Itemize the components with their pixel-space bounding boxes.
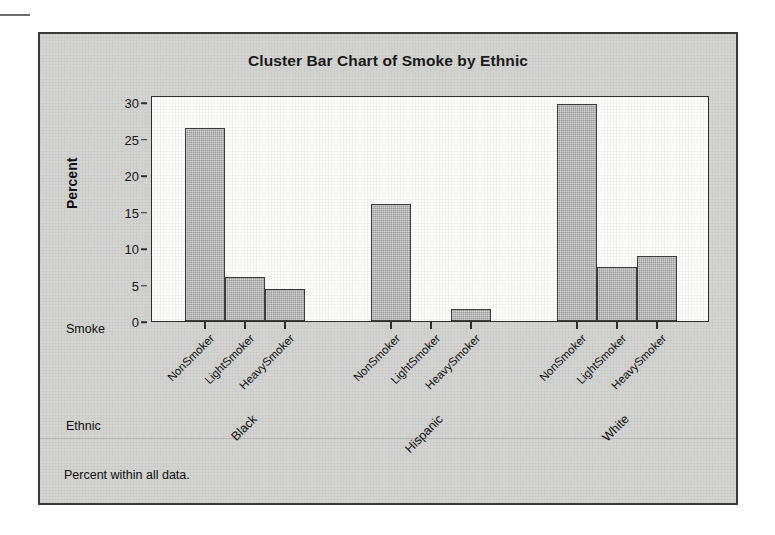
group-label: Hispanic	[402, 412, 446, 456]
y-tick-label: 15	[125, 205, 139, 220]
x-tick-mark	[390, 322, 392, 329]
x-tick-mark	[616, 322, 618, 329]
x-tick-mark	[576, 322, 578, 329]
bar	[451, 309, 491, 321]
y-axis: 051015202530	[40, 34, 151, 322]
chart-output-frame: Cluster Bar Chart of Smoke by Ethnic Per…	[38, 32, 738, 505]
group-label: White	[599, 412, 631, 444]
x-tick-mark	[204, 322, 206, 329]
bar	[637, 256, 677, 321]
y-tick-label: 30	[125, 96, 139, 111]
x-tick-mark	[244, 322, 246, 329]
x-axis-title: Smoke	[66, 322, 105, 336]
y-tick-mark	[141, 175, 147, 177]
y-tick-mark	[141, 139, 147, 141]
y-tick-mark	[141, 321, 147, 323]
y-tick-label: 10	[125, 242, 139, 257]
y-tick-label: 0	[132, 315, 139, 330]
x-tick-mark	[656, 322, 658, 329]
x-axis: NonSmokerLightSmokerHeavySmokerNonSmoker…	[151, 322, 709, 330]
scan-artifact-mark	[0, 14, 30, 16]
chart-footnote: Percent within all data.	[64, 468, 190, 482]
y-tick-mark	[141, 285, 147, 287]
y-tick-label: 5	[132, 278, 139, 293]
bar	[557, 104, 597, 321]
plot-area	[151, 96, 709, 322]
footnote-separator	[40, 438, 736, 439]
y-tick-mark	[141, 212, 147, 214]
x-tick-mark	[284, 322, 286, 329]
group-axis-title: Ethnic	[66, 419, 101, 433]
x-tick-mark	[430, 322, 432, 329]
bar	[371, 204, 411, 321]
y-tick-label: 20	[125, 169, 139, 184]
y-tick-mark	[141, 103, 147, 105]
y-tick-mark	[141, 248, 147, 250]
bars-layer	[152, 97, 708, 321]
y-tick-label: 25	[125, 132, 139, 147]
bar	[185, 128, 225, 321]
bar	[597, 267, 637, 321]
bar	[265, 289, 305, 321]
bar	[225, 277, 265, 321]
x-tick-mark	[470, 322, 472, 329]
